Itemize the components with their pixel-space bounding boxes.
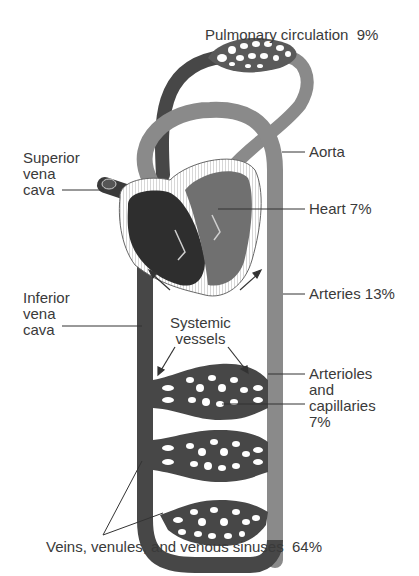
systemic-capillary-bed-1 xyxy=(153,364,268,420)
label-inferior-vena-cava: Inferior vena cava xyxy=(23,290,70,338)
arrow-down-left xyxy=(158,367,164,375)
label-arteries: Arteries 13% xyxy=(309,286,395,302)
label-heart: Heart 7% xyxy=(309,201,372,217)
label-aorta: Aorta xyxy=(309,144,345,160)
systemic-capillary-bed-2 xyxy=(153,430,268,482)
label-arterioles-capillaries: Arterioles and capillaries 7% xyxy=(309,366,376,430)
label-systemic-vessels: Systemic vessels xyxy=(170,315,231,347)
label-superior-vena-cava: Superior vena cava xyxy=(23,150,80,198)
label-pulmonary-circulation: Pulmonary circulation 9% xyxy=(205,27,378,43)
veins-leaders xyxy=(103,461,163,535)
pulmonary-capillary-bed xyxy=(208,38,297,72)
circulation-diagram: Pulmonary circulation 9% Superior vena c… xyxy=(0,0,419,576)
label-veins: Veins, venules, and venous sinuses 64% xyxy=(46,539,322,555)
